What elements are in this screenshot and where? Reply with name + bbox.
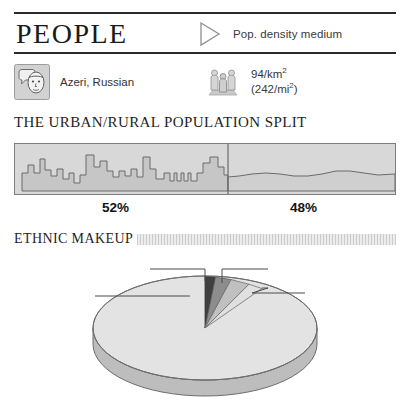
triangle-right-icon	[199, 21, 221, 47]
urban-percentage: 52%	[102, 200, 129, 215]
density-imperial: (242/mi2)	[251, 83, 298, 95]
ethnic-makeup-heading-row: ETHNIC MAKEUP	[14, 231, 396, 249]
density-value: 94/km2 (242/mi2)	[251, 67, 298, 97]
ethnic-pie-chart: Armenian 2% Other 2% Russian 3% Dagestan…	[0, 252, 410, 416]
urban-rural-heading: THE URBAN/RURAL POPULATION SPLIT	[14, 114, 307, 131]
density-flag-label: Pop. density medium	[233, 28, 342, 40]
fact-languages: Azeri, Russian	[14, 64, 134, 100]
ethnic-makeup-heading: ETHNIC MAKEUP	[14, 231, 133, 247]
urban-rural-graphic	[14, 143, 396, 195]
speech-face-icon	[14, 64, 50, 100]
density-flag: Pop. density medium	[199, 21, 342, 47]
urban-rural-labels: 52% 48%	[14, 200, 396, 220]
page-header: PEOPLE Pop. density medium	[14, 12, 396, 54]
rural-percentage: 48%	[290, 200, 317, 215]
three-people-icon	[205, 64, 241, 100]
page-title: PEOPLE	[16, 16, 128, 52]
fact-density: 94/km2 (242/mi2)	[205, 64, 298, 100]
languages-label: Azeri, Russian	[60, 75, 134, 90]
density-metric: 94/km2	[251, 68, 287, 80]
ethnic-makeup-band	[137, 234, 396, 245]
fact-row: Azeri, Russian 94/km2 (242/mi2)	[14, 64, 396, 110]
